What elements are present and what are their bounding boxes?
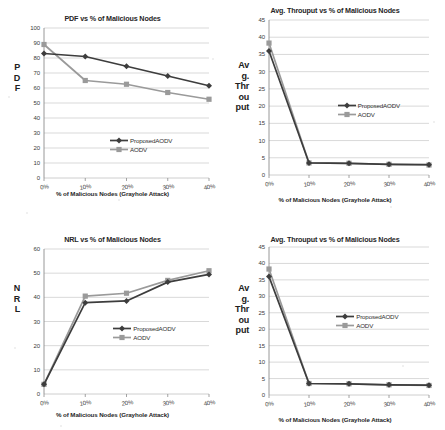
scan-artifact <box>300 418 302 420</box>
x-axis-label: % of Malicious Nodes (Grayhole Attack) <box>0 411 225 418</box>
x-axis-tick: 10% <box>79 399 91 407</box>
x-axis-tick: 40% <box>423 180 435 188</box>
legend-item-proposed-aodv: ProposedAODV <box>336 312 398 321</box>
chart-legend: ProposedAODVAODV <box>110 136 172 154</box>
y-axis-tick: 60 <box>20 85 40 91</box>
y-axis-tick: 80 <box>20 55 40 61</box>
y-axis-tick: 15 <box>245 343 265 349</box>
x-axis-tick: 0% <box>265 400 274 407</box>
y-axis-tick: 10 <box>245 359 265 365</box>
y-axis-tick: 20 <box>20 343 40 349</box>
legend-square-marker-icon <box>336 321 354 330</box>
y-axis-tick: 30 <box>20 130 40 136</box>
y-axis-tick: 40 <box>20 294 40 300</box>
plot-area: 0510152025303540450%10%20%30%40%Proposed… <box>269 20 429 175</box>
scan-artifact <box>14 347 16 349</box>
legend-diamond-marker-icon <box>338 101 356 110</box>
x-axis-label: % of Malicious Nodes (Grayhole Attack) <box>0 190 225 197</box>
legend-label: ProposedAODV <box>133 325 175 332</box>
scan-artifact <box>166 404 168 406</box>
chart-svg <box>44 249 209 394</box>
x-axis-tick: 20% <box>121 399 133 407</box>
scan-artifact <box>8 96 10 98</box>
legend-diamond-marker-icon <box>110 136 128 145</box>
legend-item-aodv: AODV <box>338 110 400 119</box>
y-axis-tick: 15 <box>245 120 265 126</box>
y-axis-tick: 35 <box>245 51 265 57</box>
y-axis-tick: 0 <box>20 175 40 181</box>
y-axis-label: NRL <box>4 283 20 315</box>
legend-label: AODV <box>130 146 147 153</box>
y-axis-label-line: L <box>4 304 20 315</box>
y-axis-tick: 10 <box>20 367 40 373</box>
y-axis-label-line: ou <box>227 315 249 326</box>
y-axis-label-line: P <box>4 62 20 73</box>
y-axis-tick: 50 <box>20 100 40 106</box>
y-axis-label-line: D <box>4 73 20 84</box>
chart-legend: ProposedAODVAODV <box>113 324 175 342</box>
y-axis-tick: 5 <box>245 376 265 382</box>
y-axis-tick: 30 <box>245 69 265 75</box>
y-axis-tick: 10 <box>20 160 40 166</box>
chart-legend: ProposedAODVAODV <box>338 101 400 119</box>
legend-label: ProposedAODV <box>356 313 398 320</box>
y-axis-tick: 30 <box>245 293 265 299</box>
y-axis-tick: 0 <box>20 391 40 397</box>
x-axis-tick: 30% <box>383 180 395 188</box>
x-axis-tick: 30% <box>162 399 174 407</box>
legend-diamond-marker-icon <box>336 312 354 321</box>
x-axis-label: % of Malicious Nodes (Grayhole Attack) <box>225 416 445 423</box>
figure-pdf-chart: PDF vs % of Malicious Nodes PDF 01020304… <box>0 0 225 215</box>
x-axis-tick: 40% <box>423 400 435 408</box>
chart-title: Avg. Throuput vs % of Malicious Nodes <box>225 6 445 15</box>
y-axis-tick: 40 <box>245 34 265 40</box>
scan-artifact <box>26 212 28 214</box>
figure-nrl-chart: NRL vs % of Malicious Nodes NRL 01020304… <box>0 215 225 430</box>
x-axis-tick: 30% <box>383 400 395 408</box>
y-axis-tick: 30 <box>20 319 40 325</box>
legend-item-aodv: AODV <box>110 145 172 154</box>
chart-title: PDF vs % of Malicious Nodes <box>0 14 225 23</box>
chart-title: Avg. Throuput vs % of Malicious Nodes <box>225 235 445 244</box>
legend-label: ProposedAODV <box>358 102 400 109</box>
legend-label: AODV <box>133 334 150 341</box>
x-axis-label: % of Malicious Nodes (Grayhole Attack) <box>225 196 445 203</box>
x-axis-tick: 20% <box>343 180 355 188</box>
y-axis-tick: 50 <box>20 270 40 276</box>
y-axis-label-line: N <box>4 283 20 294</box>
legend-item-aodv: AODV <box>336 321 398 330</box>
legend-item-proposed-aodv: ProposedAODV <box>338 101 400 110</box>
y-axis-tick: 90 <box>20 40 40 46</box>
y-axis-label-line: F <box>4 83 20 94</box>
plot-area: 01020304050600%10%20%30%40%ProposedAODVA… <box>44 249 209 394</box>
x-axis-tick: 20% <box>343 400 355 408</box>
y-axis-tick: 100 <box>20 25 40 31</box>
legend-label: AODV <box>358 111 375 118</box>
y-axis-label-line: ou <box>227 92 249 103</box>
x-axis-tick: 10% <box>303 400 315 408</box>
y-axis-tick: 5 <box>245 155 265 161</box>
legend-item-proposed-aodv: ProposedAODV <box>110 136 172 145</box>
scan-artifact <box>60 425 62 427</box>
y-axis-label-line: Av <box>227 283 249 294</box>
legend-item-aodv: AODV <box>113 333 175 342</box>
legend-item-proposed-aodv: ProposedAODV <box>113 324 175 333</box>
legend-square-marker-icon <box>113 333 131 342</box>
x-axis-tick: 10% <box>303 180 315 188</box>
y-axis-tick: 35 <box>245 277 265 283</box>
y-axis-label: PDF <box>4 62 20 94</box>
scan-artifact <box>433 121 435 123</box>
y-axis-tick: 10 <box>245 138 265 144</box>
legend-square-marker-icon <box>338 110 356 119</box>
scan-artifact <box>212 58 214 60</box>
y-axis-tick: 60 <box>20 246 40 252</box>
figure-throughput-chart-top: Avg. Throuput vs % of Malicious Nodes Av… <box>225 0 445 215</box>
plot-area: 01020304050607080901000%10%20%30%40%Prop… <box>44 28 209 178</box>
y-axis-tick: 0 <box>245 392 265 398</box>
scan-artifact <box>390 206 392 208</box>
legend-diamond-marker-icon <box>113 324 131 333</box>
legend-label: AODV <box>356 322 373 329</box>
chart-svg <box>44 28 209 178</box>
y-axis-tick: 20 <box>245 103 265 109</box>
y-axis-tick: 0 <box>245 172 265 178</box>
